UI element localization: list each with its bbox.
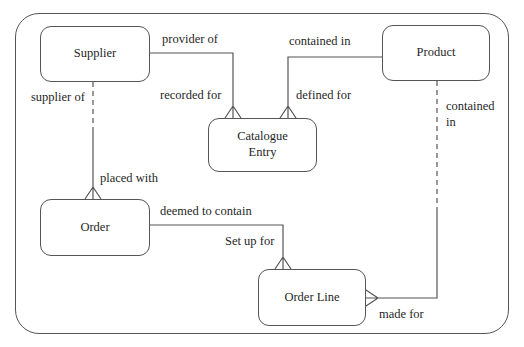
relationship-label-provider-of: provider of <box>162 32 218 48</box>
entity-order: Order <box>40 199 150 256</box>
entity-product-label: Product <box>417 45 456 61</box>
relationship-label-supplier-of: supplier of <box>31 90 85 106</box>
relationship-label-defined-for: defined for <box>296 88 351 104</box>
relationship-label-made-for: made for <box>379 307 424 323</box>
entity-catalogue-entry-label: Catalogue Entry <box>232 129 294 160</box>
relationship-label-recorded-for: recorded for <box>160 88 221 104</box>
entity-catalogue-entry: Catalogue Entry <box>208 118 317 172</box>
entity-order-line-label: Order Line <box>284 290 339 306</box>
relationship-label-deemed-to-contain: deemed to contain <box>160 204 252 220</box>
entity-product: Product <box>382 25 490 81</box>
relationship-label-set-up-for: Set up for <box>225 234 274 250</box>
relationship-label-contained-in-vertical: contained in <box>446 99 504 130</box>
entity-supplier-label: Supplier <box>74 46 116 62</box>
entity-order-label: Order <box>80 220 109 236</box>
relationship-label-contained-in: contained in <box>289 34 350 50</box>
relationship-label-placed-with: placed with <box>100 171 158 187</box>
entity-supplier: Supplier <box>40 26 150 82</box>
er-diagram-canvas: Supplier Product Catalogue Entry Order O… <box>0 0 524 347</box>
entity-order-line: Order Line <box>258 269 366 326</box>
